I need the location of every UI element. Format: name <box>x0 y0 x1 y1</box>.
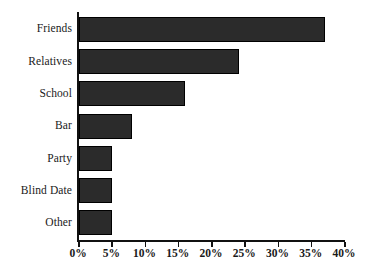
y-axis-category-label: Relatives <box>0 45 72 77</box>
y-axis-category-label: Blind Date <box>0 174 72 206</box>
x-axis-tick-label: 0% <box>69 248 86 260</box>
x-axis-tick-label: 40% <box>333 248 356 260</box>
bar-row <box>79 45 345 77</box>
bar <box>79 81 185 106</box>
bar <box>79 17 325 42</box>
x-axis-tick-label: 5% <box>103 248 120 260</box>
x-axis-tick-labels: 0%5%10%15%20%25%30%35%40% <box>78 248 344 266</box>
bar <box>79 146 112 171</box>
y-axis-category-label: Bar <box>0 110 72 142</box>
bar-row <box>79 174 345 206</box>
x-axis-tick-label: 15% <box>166 248 189 260</box>
y-axis-category-labels: FriendsRelativesSchoolBarPartyBlind Date… <box>0 13 72 239</box>
y-axis-category-label: Friends <box>0 13 72 45</box>
bar-row <box>79 13 345 45</box>
y-axis-category-label: Other <box>0 207 72 239</box>
bar-row <box>79 110 345 142</box>
bar <box>79 114 132 139</box>
x-axis-tick-label: 35% <box>299 248 322 260</box>
x-axis-tick-label: 30% <box>266 248 289 260</box>
y-axis-category-label: Party <box>0 142 72 174</box>
bar <box>79 49 239 74</box>
x-axis-tick-label: 20% <box>200 248 223 260</box>
bar-series <box>79 13 345 239</box>
y-axis-category-label: School <box>0 78 72 110</box>
bar-chart: FriendsRelativesSchoolBarPartyBlind Date… <box>0 0 385 273</box>
x-axis-tick-label: 25% <box>233 248 256 260</box>
bar-row <box>79 78 345 110</box>
bar-row <box>79 142 345 174</box>
x-axis-tick-label: 10% <box>133 248 156 260</box>
bar <box>79 178 112 203</box>
bar <box>79 210 112 235</box>
bar-row <box>79 207 345 239</box>
